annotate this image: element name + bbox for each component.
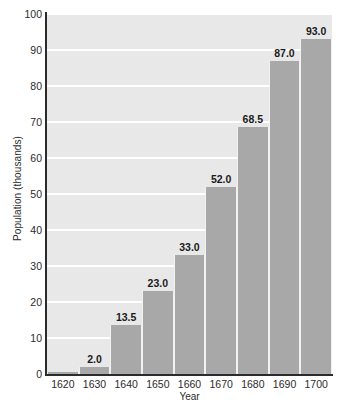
x-axis-tick-label: 1620 (47, 378, 79, 390)
bar-slot (174, 14, 206, 374)
bar-slot (142, 14, 174, 374)
bar-slot (79, 14, 111, 374)
x-axis-tick-label: 1690 (269, 378, 301, 390)
bar[interactable] (269, 61, 301, 374)
bar[interactable] (142, 291, 174, 374)
y-axis-tick-label: 0 (14, 369, 42, 379)
y-axis-tick-label: 60 (14, 153, 42, 163)
x-axis-tick-label: 1660 (174, 378, 206, 390)
y-axis-tick-label: 80 (14, 81, 42, 91)
bar-slot (47, 14, 79, 374)
x-axis-tick-label: 1680 (237, 378, 269, 390)
x-axis-tick-label: 1630 (79, 378, 111, 390)
y-axis-tick-label: 40 (14, 225, 42, 235)
x-axis-tick-label: 1670 (205, 378, 237, 390)
bar[interactable] (237, 127, 269, 374)
bar[interactable] (79, 367, 111, 374)
x-axis-title: Year (47, 391, 332, 402)
y-axis-tick-label: 50 (14, 189, 42, 199)
y-axis-tick-label: 20 (14, 297, 42, 307)
x-axis-tick-label: 1640 (110, 378, 142, 390)
x-axis-tick-label: 1650 (142, 378, 174, 390)
bar-slot (205, 14, 237, 374)
y-axis-tick-label: 10 (14, 333, 42, 343)
x-axis-line (45, 374, 333, 376)
bar-slot (237, 14, 269, 374)
bar[interactable] (110, 325, 142, 374)
y-axis-tick-label: 100 (14, 9, 42, 19)
x-axis-tick-labels: 162016301640165016601670168016901700 (47, 378, 332, 390)
bar-slot (300, 14, 332, 374)
x-axis-tick-label: 1700 (300, 378, 332, 390)
bars-group (47, 14, 332, 374)
bar[interactable] (300, 39, 332, 374)
bar[interactable] (174, 255, 206, 374)
bar[interactable] (205, 187, 237, 374)
bar-slot (269, 14, 301, 374)
y-axis-tick-label: 90 (14, 45, 42, 55)
plot-area (47, 14, 332, 374)
bar-chart: Population (thousands) 01020304050607080… (0, 0, 342, 407)
y-axis-tick-label: 70 (14, 117, 42, 127)
y-axis-tick-labels: 0102030405060708090100 (14, 14, 42, 374)
bar-slot (110, 14, 142, 374)
y-axis-tick-label: 30 (14, 261, 42, 271)
